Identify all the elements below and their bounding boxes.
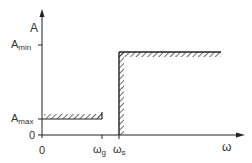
- x-axis: [42, 133, 245, 140]
- y-axis-arrow-icon: [40, 9, 45, 17]
- filter-tolerance-diagram: A Amin Amax 0 0 ωg ωs ω: [0, 0, 252, 163]
- tick-label-zero: 0: [29, 130, 35, 141]
- tick-sub: min: [18, 43, 31, 52]
- tick-label-omega-s: ωs: [113, 144, 126, 157]
- tick-sub: max: [18, 117, 33, 126]
- x-axis-label: ω: [222, 141, 231, 153]
- tick-label-omega-g: ωg: [93, 144, 106, 157]
- y-axis-label: A: [30, 22, 38, 34]
- passband-bound: [42, 112, 102, 119]
- tick-sub: s: [122, 148, 126, 157]
- tick-main: ω: [93, 143, 102, 155]
- tick-sub: g: [102, 148, 106, 157]
- tick-label-amax: Amax: [11, 113, 33, 126]
- tick-main: ω: [113, 143, 122, 155]
- stopband-bound: [119, 52, 221, 135]
- x-origin-label: 0: [39, 145, 45, 156]
- x-axis-arrow-icon: [236, 133, 245, 138]
- tick-label-amin: Amin: [11, 39, 31, 52]
